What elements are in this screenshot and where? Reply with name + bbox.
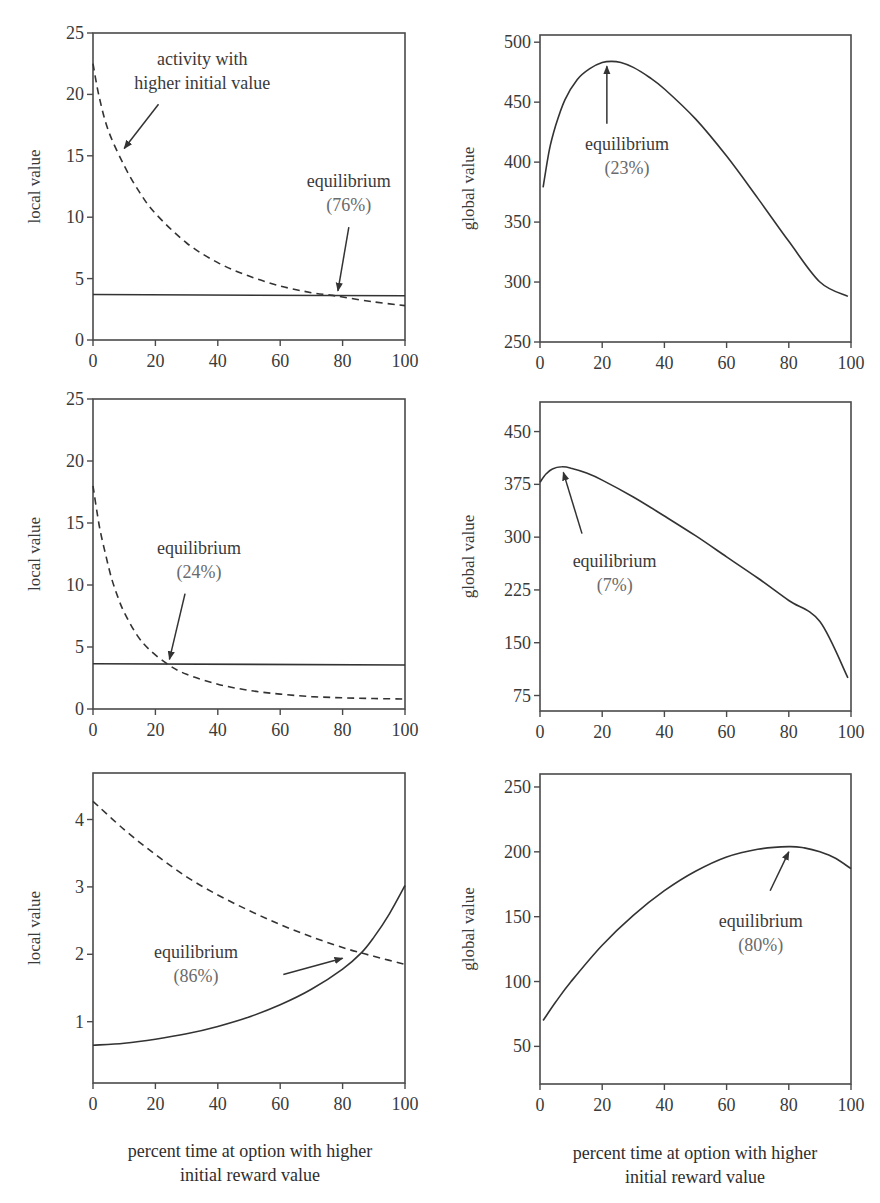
x-tick-label: 80: [780, 353, 798, 373]
arrow-icon: [770, 852, 789, 891]
annotation: activity withhigher initial value: [124, 49, 270, 149]
y-axis-label: local value: [25, 149, 44, 223]
y-axis: 0510152025: [66, 23, 93, 350]
x-tick-label: 80: [780, 1095, 798, 1115]
y-tick-label: 375: [504, 474, 531, 494]
x-tick-label: 0: [89, 351, 98, 371]
y-tick-label: 450: [504, 92, 531, 112]
x-tick-label: 20: [146, 1094, 164, 1114]
y-tick-label: 25: [66, 23, 84, 43]
x-tick-label: 0: [89, 1094, 98, 1114]
annotation-sublabel: (86%): [173, 966, 218, 987]
annotation-sublabel: (76%): [326, 195, 371, 216]
x-tick-label: 0: [89, 720, 98, 740]
x-axis: 020406080100: [536, 342, 865, 373]
y-tick-label: 225: [504, 580, 531, 600]
annotation-sublabel: (7%): [597, 575, 633, 596]
chart-panel-top-left: 0204060801000510152025local valueactivit…: [25, 23, 419, 371]
plot-frame: [540, 774, 851, 1084]
arrow-icon: [124, 104, 158, 148]
solid-series-line: [93, 886, 405, 1046]
x-axis: 020406080100: [89, 340, 419, 371]
y-tick-label: 100: [504, 972, 531, 992]
annotation: equilibrium(80%): [719, 852, 803, 956]
plot-frame: [93, 773, 405, 1083]
annotation-label: activity with: [157, 49, 247, 69]
y-tick-label: 4: [75, 810, 84, 830]
y-axis-label: global value: [459, 147, 478, 231]
x-tick-label: 20: [593, 722, 611, 742]
x-axis-caption-right: percent time at option with higher initi…: [495, 1141, 880, 1189]
y-tick-label: 20: [66, 84, 84, 104]
arrow-icon: [338, 227, 349, 291]
chart-panel-bottom-right: 02040608010050100150200250global valueeq…: [459, 774, 865, 1115]
annotation-sublabel: (23%): [605, 158, 650, 179]
x-tick-label: 0: [536, 722, 545, 742]
y-tick-label: 15: [66, 513, 84, 533]
x-tick-label: 100: [392, 720, 419, 740]
y-tick-label: 150: [504, 907, 531, 927]
y-tick-label: 20: [66, 451, 84, 471]
y-tick-label: 10: [66, 207, 84, 227]
x-caption-line2: initial reward value: [50, 1163, 450, 1187]
y-axis-label: local value: [25, 891, 44, 965]
y-tick-label: 50: [513, 1036, 531, 1056]
x-caption-line1: percent time at option with higher: [495, 1141, 880, 1165]
x-tick-label: 40: [655, 1095, 673, 1115]
y-axis: 50100150200250: [504, 777, 540, 1056]
y-tick-label: 10: [66, 575, 84, 595]
y-axis: 1234: [75, 810, 93, 1032]
annotation-label: equilibrium: [719, 911, 803, 931]
x-tick-label: 40: [655, 353, 673, 373]
arrow-icon: [169, 594, 185, 660]
solid-series-line: [93, 295, 405, 296]
annotation: equilibrium(76%): [307, 171, 391, 291]
chart-panel-bottom-left: 0204060801001234local valueequilibrium(8…: [25, 773, 419, 1114]
x-tick-label: 80: [334, 720, 352, 740]
y-tick-label: 350: [504, 212, 531, 232]
plot-frame: [93, 399, 405, 709]
x-tick-label: 60: [271, 1094, 289, 1114]
y-tick-label: 150: [504, 633, 531, 653]
y-tick-label: 75: [513, 686, 531, 706]
x-tick-label: 100: [838, 722, 865, 742]
x-tick-label: 80: [334, 1094, 352, 1114]
x-tick-label: 40: [655, 722, 673, 742]
x-caption-line1: percent time at option with higher: [50, 1139, 450, 1163]
x-tick-label: 20: [146, 720, 164, 740]
solid-series-line: [543, 61, 848, 296]
y-axis: 0510152025: [66, 389, 93, 719]
x-tick-label: 40: [209, 1094, 227, 1114]
chart-panel-middle-right: 02040608010075150225300375450global valu…: [459, 402, 865, 742]
x-tick-label: 100: [838, 1095, 865, 1115]
annotation-sublabel: (80%): [738, 935, 783, 956]
y-tick-label: 300: [504, 272, 531, 292]
x-tick-label: 40: [209, 351, 227, 371]
x-axis: 020406080100: [536, 1084, 865, 1115]
annotation-label: equilibrium: [154, 942, 238, 962]
x-tick-label: 0: [536, 1095, 545, 1115]
solid-series-line: [543, 847, 851, 1021]
y-tick-label: 450: [504, 422, 531, 442]
plot-frame: [540, 35, 851, 342]
y-axis-label: global value: [459, 515, 478, 599]
y-tick-label: 0: [75, 330, 84, 350]
y-tick-label: 250: [504, 332, 531, 352]
x-tick-label: 60: [271, 351, 289, 371]
y-tick-label: 5: [75, 269, 84, 289]
x-caption-line2: initial reward value: [495, 1165, 880, 1189]
annotation-sublabel: (24%): [177, 562, 222, 583]
x-tick-label: 60: [718, 1095, 736, 1115]
x-tick-label: 0: [536, 353, 545, 373]
annotation-sublabel: higher initial value: [134, 73, 270, 93]
solid-series-line: [93, 664, 405, 665]
x-tick-label: 80: [334, 351, 352, 371]
y-axis: 250300350400450500: [504, 32, 540, 352]
x-tick-label: 20: [593, 1095, 611, 1115]
y-tick-label: 500: [504, 32, 531, 52]
x-axis: 020406080100: [536, 711, 865, 742]
y-tick-label: 250: [504, 777, 531, 797]
x-tick-label: 60: [718, 722, 736, 742]
dashed-series-line: [93, 486, 405, 699]
annotation-label: equilibrium: [573, 551, 657, 571]
